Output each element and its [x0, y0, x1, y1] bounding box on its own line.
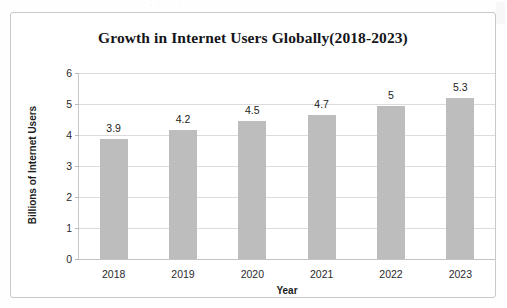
plot-area: 01234563.920184.220194.520204.7202152022… — [69, 61, 497, 259]
bar-value-label: 4.7 — [314, 98, 329, 110]
y-axis-tick-label: 5 — [66, 98, 72, 110]
chart-page: · · · · · Growth in Internet Users Globa… — [0, 0, 507, 308]
chart-title: Growth in Internet Users Globally(2018-2… — [11, 29, 495, 47]
y-axis-tick-label: 6 — [66, 67, 72, 79]
bar-value-label: 3.9 — [106, 122, 121, 134]
x-axis-tick-label: 2022 — [379, 268, 402, 280]
gridline — [79, 166, 495, 167]
bar-value-label: 4.2 — [176, 113, 191, 125]
x-axis-tick-label: 2020 — [241, 268, 264, 280]
y-axis-tick — [75, 197, 79, 198]
y-axis-tick — [75, 104, 79, 105]
y-axis-title: Billions of Internet Users — [27, 106, 38, 224]
scan-artifact-text: · · · · · — [150, 0, 360, 9]
bar-value-label: 5.3 — [453, 81, 468, 93]
y-axis-tick — [75, 166, 79, 167]
y-axis-tick-label: 2 — [66, 191, 72, 203]
gridline — [79, 104, 495, 105]
bar[interactable] — [377, 106, 405, 259]
y-axis-tick-label: 1 — [66, 222, 72, 234]
gridline — [79, 135, 495, 136]
x-axis-title: Year — [79, 285, 495, 296]
y-axis-tick — [75, 73, 79, 74]
bar-value-label: 5 — [388, 89, 394, 101]
x-axis-tick-label: 2018 — [102, 268, 125, 280]
x-axis-tick-label: 2019 — [171, 268, 194, 280]
plot-inner: 01234563.920184.220194.520204.7202152022… — [79, 73, 495, 259]
gridline — [79, 259, 495, 260]
bar[interactable] — [238, 121, 266, 259]
y-axis-tick — [75, 228, 79, 229]
y-axis-tick — [75, 135, 79, 136]
gridline — [79, 197, 495, 198]
bar[interactable] — [446, 98, 474, 259]
y-axis-tick-label: 3 — [66, 160, 72, 172]
bar-value-label: 4.5 — [245, 104, 260, 116]
y-axis-tick-label: 4 — [66, 129, 72, 141]
chart-container: Growth in Internet Users Globally(2018-2… — [10, 12, 496, 298]
x-axis-tick-label: 2021 — [310, 268, 333, 280]
scan-artifact-edge — [496, 2, 505, 24]
bar[interactable] — [169, 130, 197, 259]
bar[interactable] — [100, 139, 128, 259]
bar[interactable] — [308, 115, 336, 259]
gridline — [79, 73, 495, 74]
x-axis-tick-label: 2023 — [449, 268, 472, 280]
y-axis-tick-label: 0 — [66, 253, 72, 265]
y-axis-tick — [75, 259, 79, 260]
gridline — [79, 228, 495, 229]
